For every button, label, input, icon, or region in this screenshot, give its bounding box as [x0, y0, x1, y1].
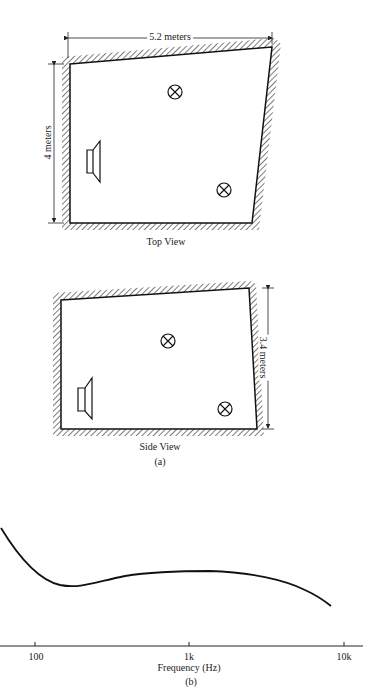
tick-label-1k: 1k — [184, 651, 194, 662]
height-dimension-label: 3.4 meters — [258, 335, 269, 381]
x-axis-label: Frequency (Hz) — [157, 662, 220, 673]
room-outline — [70, 47, 272, 223]
microphone-position-icon — [168, 85, 182, 99]
depth-dimension-label: 4 meters — [42, 123, 53, 161]
top-view — [48, 32, 281, 230]
room-diagram — [0, 0, 378, 691]
tick-label-10k: 10k — [337, 651, 352, 662]
top-view-title: Top View — [147, 236, 186, 247]
frequency-response-chart — [0, 528, 363, 646]
side-view-title: Side View — [139, 441, 180, 452]
side-view — [53, 281, 274, 436]
response-curve — [1, 528, 331, 606]
width-dimension-label: 5.2 meters — [147, 31, 193, 42]
microphone-position-icon — [218, 402, 232, 416]
microphone-position-icon — [161, 334, 175, 348]
tick-label-100: 100 — [29, 651, 44, 662]
microphone-position-icon — [217, 183, 231, 197]
figure-a-caption: (a) — [154, 456, 165, 467]
figure-b-caption: (b) — [185, 676, 197, 687]
